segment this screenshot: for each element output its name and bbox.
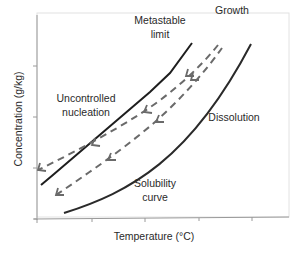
label-limit: limit (151, 28, 170, 40)
y-axis-label: Concentration (g/kg) (12, 71, 24, 166)
label-growth: Growth (215, 4, 249, 16)
growth-path-lower (56, 48, 222, 195)
label-solubility: Solubility (134, 177, 177, 189)
label-curve: curve (142, 191, 168, 203)
crystallization-phase-diagram: Metastable limit Growth Uncontrolled nuc… (0, 0, 301, 253)
arrow-icon (144, 105, 152, 113)
label-uncontrolled: Uncontrolled (57, 92, 116, 104)
y-ticks (33, 66, 37, 219)
x-axis-label: Temperature (°C) (114, 230, 195, 242)
arrow-icon (108, 153, 116, 160)
label-metastable: Metastable (134, 14, 186, 26)
label-nucleation: nucleation (62, 106, 110, 118)
label-dissolution: Dissolution (208, 111, 260, 123)
